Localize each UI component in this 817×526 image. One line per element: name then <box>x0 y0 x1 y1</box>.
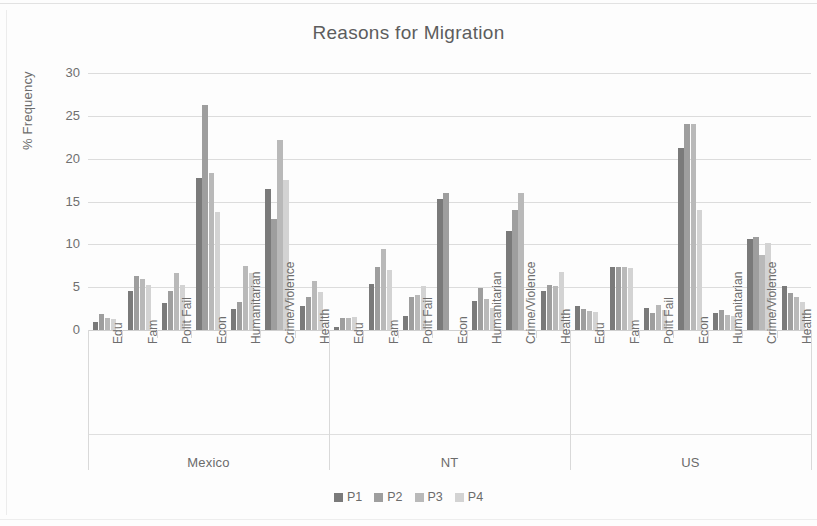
group-tier-divider <box>88 434 811 435</box>
bar <box>93 322 98 330</box>
group-divider <box>88 330 89 470</box>
group-divider <box>811 330 812 470</box>
legend-swatch-icon <box>415 493 424 502</box>
gridline <box>88 159 811 160</box>
legend-swatch-icon <box>334 493 343 502</box>
legend-item[interactable]: P3 <box>415 490 443 504</box>
bar <box>99 314 104 330</box>
bar <box>725 315 730 330</box>
bar <box>196 178 201 330</box>
category-tick <box>708 330 709 338</box>
group-label: Mexico <box>88 455 329 470</box>
category-tick <box>363 330 364 338</box>
bar <box>587 311 592 330</box>
chart-legend: P1P2P3P4 <box>0 490 817 504</box>
bar <box>759 255 764 330</box>
bar <box>237 302 242 330</box>
group-divider <box>570 330 571 470</box>
bar <box>581 309 586 330</box>
category-tick <box>157 330 158 338</box>
bar <box>243 266 248 330</box>
bar <box>788 293 793 330</box>
bar <box>753 237 758 330</box>
gridline <box>88 116 811 117</box>
bar <box>381 249 386 330</box>
category-tick <box>742 330 743 338</box>
bar <box>472 301 477 330</box>
bar <box>478 288 483 330</box>
category-tick <box>467 330 468 338</box>
category-tick <box>673 330 674 338</box>
bar <box>616 267 621 330</box>
legend-swatch-icon <box>455 493 464 502</box>
gridline <box>88 73 811 74</box>
category-tick <box>122 330 123 338</box>
bar <box>610 267 615 330</box>
bar <box>678 148 683 330</box>
bar <box>622 267 627 330</box>
bar <box>346 318 351 330</box>
plot-area <box>88 73 811 330</box>
y-axis-tick-label: 20 <box>52 152 80 165</box>
bar <box>443 193 448 330</box>
legend-label: P1 <box>347 490 362 504</box>
legend-label: P2 <box>387 490 402 504</box>
bar <box>174 273 179 330</box>
bar <box>518 193 523 330</box>
chart-title: Reasons for Migration <box>0 22 817 44</box>
category-tick <box>604 330 605 338</box>
bar <box>215 212 220 330</box>
bar <box>265 189 270 330</box>
legend-item[interactable]: P4 <box>455 490 483 504</box>
legend-label: P3 <box>428 490 443 504</box>
bar <box>277 140 282 330</box>
legend-item[interactable]: P1 <box>334 490 362 504</box>
bar <box>202 105 207 330</box>
y-axis-tick-label: 15 <box>52 195 80 208</box>
bar <box>209 173 214 330</box>
chart-container: Reasons for Migration % Frequency 051015… <box>0 0 817 526</box>
bar <box>105 318 110 330</box>
bar <box>697 210 702 330</box>
group-label: NT <box>329 455 570 470</box>
category-tick <box>88 330 89 338</box>
bar <box>162 303 167 330</box>
bar <box>719 310 724 330</box>
bar <box>541 291 546 330</box>
category-tick <box>432 330 433 338</box>
bar <box>512 210 517 330</box>
page-edge-bottom <box>0 519 817 520</box>
bar <box>140 279 145 330</box>
legend-swatch-icon <box>374 493 383 502</box>
bar <box>575 306 580 330</box>
bar <box>547 285 552 330</box>
page-edge-top <box>0 3 817 4</box>
bar <box>134 276 139 330</box>
legend-item[interactable]: P2 <box>374 490 402 504</box>
bar <box>747 239 752 330</box>
bar <box>168 291 173 330</box>
category-tick <box>570 330 571 338</box>
bar <box>300 306 305 330</box>
bar <box>644 308 649 330</box>
bar <box>484 299 489 330</box>
category-tick <box>226 330 227 338</box>
category-tick <box>501 330 502 338</box>
category-tick <box>329 330 330 338</box>
bar <box>375 267 380 330</box>
category-tick <box>191 330 192 338</box>
bar <box>691 124 696 330</box>
page-edge-left <box>6 10 7 515</box>
bar <box>312 281 317 330</box>
y-axis-tick-label: 10 <box>52 237 80 250</box>
legend-label: P4 <box>468 490 483 504</box>
bar <box>340 318 345 330</box>
category-tick <box>398 330 399 338</box>
bar <box>782 286 787 330</box>
bar <box>306 297 311 330</box>
bar <box>684 124 689 330</box>
bar <box>128 291 133 330</box>
bar <box>403 316 408 330</box>
bar <box>506 231 511 330</box>
y-axis-tick-label: 30 <box>52 66 80 79</box>
